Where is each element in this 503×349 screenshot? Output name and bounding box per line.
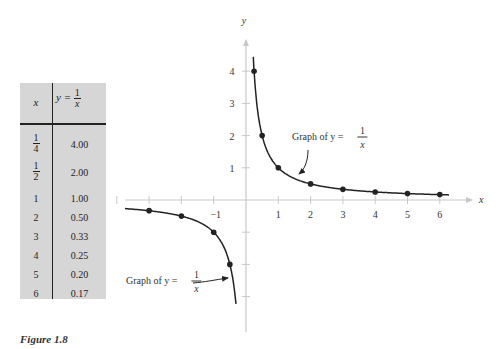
data-point bbox=[251, 68, 257, 74]
data-points bbox=[146, 68, 442, 267]
x-tick-label-neg-one: −1 bbox=[210, 209, 221, 220]
fraction-numerator: 1 bbox=[194, 269, 199, 280]
curves bbox=[125, 57, 449, 304]
data-point bbox=[308, 181, 314, 187]
annotations: Graph of y =1xGraph of y =1x bbox=[126, 125, 367, 294]
x-tick-label: 2 bbox=[308, 209, 313, 220]
data-point bbox=[146, 208, 152, 214]
fraction-denominator: x bbox=[359, 139, 365, 150]
annotation-lower: Graph of y =1x bbox=[126, 269, 201, 294]
annotation-text: Graph of y = bbox=[126, 275, 178, 286]
graph-reciprocal-function: 1234561234−1xy Graph of y =1xGraph of y … bbox=[0, 0, 503, 349]
x-tick-label: 3 bbox=[340, 209, 345, 220]
x-axis-label: x bbox=[478, 194, 484, 205]
y-tick-label: 3 bbox=[230, 98, 235, 109]
y-tick-label: 2 bbox=[230, 131, 235, 142]
data-point bbox=[340, 187, 346, 193]
annotation-text: Graph of y = bbox=[292, 131, 344, 142]
x-tick-label: 5 bbox=[405, 209, 410, 220]
x-tick-label: 4 bbox=[373, 209, 378, 220]
fraction-denominator: x bbox=[193, 283, 199, 294]
data-point bbox=[437, 192, 443, 198]
data-point bbox=[211, 229, 217, 235]
curve-positive-branch bbox=[253, 57, 449, 195]
data-point bbox=[276, 165, 282, 171]
figure-caption: Figure 1.8 bbox=[20, 333, 68, 345]
x-tick-label: 1 bbox=[276, 209, 281, 220]
annotation-arrow-upper bbox=[299, 150, 308, 174]
data-point bbox=[227, 262, 233, 268]
data-point bbox=[372, 189, 378, 195]
data-point bbox=[259, 133, 265, 139]
curve-negative-branch bbox=[125, 209, 236, 304]
y-tick-label: 1 bbox=[230, 163, 235, 174]
data-point bbox=[405, 191, 411, 197]
annotation-upper: Graph of y =1x bbox=[292, 125, 367, 150]
axes bbox=[117, 40, 472, 332]
y-tick-label: 4 bbox=[230, 66, 235, 77]
fraction-numerator: 1 bbox=[360, 125, 365, 136]
y-axis-label: y bbox=[241, 15, 247, 26]
data-point bbox=[179, 213, 185, 219]
x-tick-label: 6 bbox=[437, 209, 442, 220]
